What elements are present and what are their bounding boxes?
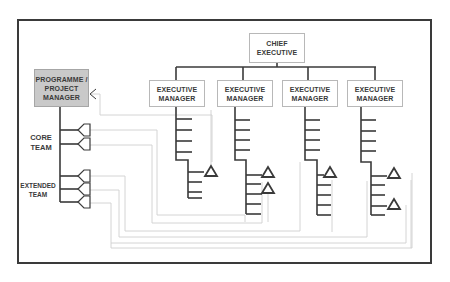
core-team-label: CORE TEAM [26,133,56,153]
executive-manager-box-4: EXECUTIVEMANAGER [347,80,403,107]
triangle-icon [262,167,274,177]
extended-member-icon [78,170,90,182]
em-label-line2: MANAGER [290,94,331,103]
triangle-icon [205,166,217,176]
pm-label-line2: PROJECT [35,84,87,93]
executive-manager-box-3: EXECUTIVEMANAGER [282,80,338,107]
chief-executive-box: CHIEFEXECUTIVE [249,33,305,63]
project-manager-box: PROGRAMME /PROJECTMANAGER [34,69,89,107]
em-label-line2: MANAGER [355,94,396,103]
triangle-icon [324,167,336,177]
extended-label-line2: TEAM [18,190,58,199]
em-label-line1: EXECUTIVE [225,85,266,94]
pm-label-line3: MANAGER [35,93,87,102]
extended-member-icon [78,183,90,195]
triangle-icon [262,183,274,193]
extended-label-line1: EXTENDED [18,181,58,190]
matrix-connectors [90,94,412,248]
core-label-line1: CORE [26,133,56,143]
executive-manager-box-1: EXECUTIVEMANAGER [149,80,205,107]
core-member-icon [78,138,90,150]
em-label-line1: EXECUTIVE [157,85,198,94]
extended-team-label: EXTENDED TEAM [18,181,58,199]
core-member-icon [78,124,90,136]
chief-label-line1: CHIEF [257,39,298,48]
executive-manager-box-2: EXECUTIVEMANAGER [217,80,273,107]
core-label-line2: TEAM [26,143,56,153]
extended-member-icon [78,196,90,208]
org-chart-diagram: CHIEFEXECUTIVE EXECUTIVEMANAGER EXECUTIV… [0,0,450,282]
team-member-shapes [78,124,90,208]
em-label-line2: MANAGER [157,94,198,103]
em-label-line1: EXECUTIVE [355,85,396,94]
em-label-line2: MANAGER [225,94,266,103]
em-label-line1: EXECUTIVE [290,85,331,94]
triangle-icon [388,168,400,178]
connector-lines [0,0,450,282]
chief-label-line2: EXECUTIVE [257,48,298,57]
pm-label-line1: PROGRAMME / [35,75,87,84]
triangle-icon [388,199,400,209]
